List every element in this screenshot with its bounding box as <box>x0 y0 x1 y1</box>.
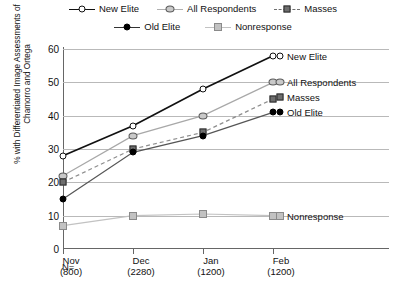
y-tick-label: 50 <box>48 77 59 88</box>
legend-key-old-elite-icon <box>114 21 140 33</box>
y-tick-label: 20 <box>48 177 59 188</box>
data-point-open-circle-icon <box>60 152 67 159</box>
legend-row-2: Old Elite Nonresponse <box>0 18 406 36</box>
series-line <box>63 82 273 175</box>
legend-label-old-elite: Old Elite <box>144 21 180 33</box>
legend-item-all-respondents: All Respondents <box>157 3 256 15</box>
data-point-filled-circle-icon <box>200 132 207 139</box>
series-end-marker-icon <box>277 52 284 59</box>
series-end-label-all-respondents: All Respondents <box>287 77 356 88</box>
data-point-dark-square-icon <box>60 179 67 186</box>
x-tick-label: Feb(1200) <box>267 255 294 277</box>
series-end-marker-icon <box>277 94 284 101</box>
legend-key-new-elite-icon <box>69 3 95 15</box>
y-axis-title: % with Differentiated Image Assessments … <box>13 0 33 179</box>
data-point-filled-circle-icon <box>60 196 67 203</box>
data-point-open-circle-icon <box>200 86 207 93</box>
legend-label-new-elite: New Elite <box>99 3 139 15</box>
data-point-filled-circle-icon <box>270 109 277 116</box>
series-line <box>63 97 273 182</box>
plot-area: 0102030405060 Nov(800)Dec(2280)Jan(1200)… <box>63 49 290 249</box>
legend-row-1: New Elite All Respondents Masses <box>0 0 406 18</box>
data-point-light-square-icon <box>199 210 207 218</box>
data-point-open-circle-icon <box>270 52 277 59</box>
legend-item-nonresponse: Nonresponse <box>205 21 292 33</box>
legend-item-old-elite: Old Elite <box>114 21 180 33</box>
data-point-light-square-icon <box>59 222 67 230</box>
x-tick-label: Jan(1200) <box>197 255 224 277</box>
legend-key-masses-icon <box>274 3 300 15</box>
series-end-marker-icon <box>277 109 284 116</box>
x-tick-n: (1200) <box>267 266 294 277</box>
legend-label-all-respondents: All Respondents <box>187 3 256 15</box>
series-end-label-masses: Masses <box>287 92 320 103</box>
data-point-grey-circle-icon <box>199 112 208 119</box>
series-end-label-new-elite: New Elite <box>287 50 327 61</box>
chart-figure: New Elite All Respondents Masses <box>0 0 406 295</box>
series-end-label-old-elite: Old Elite <box>287 107 323 118</box>
legend-label-masses: Masses <box>304 3 337 15</box>
legend-key-all-respondents-icon <box>157 3 183 15</box>
y-tick-label: 10 <box>48 210 59 221</box>
series-end-label-nonresponse: Nonresponse <box>287 210 344 221</box>
y-tick-label: 40 <box>48 110 59 121</box>
series-line <box>63 214 273 226</box>
legend-item-masses: Masses <box>274 3 337 15</box>
legend-item-new-elite: New Elite <box>69 3 139 15</box>
x-tick-month: Feb <box>267 255 294 266</box>
data-point-light-square-icon <box>129 212 137 220</box>
x-tick-n: (2280) <box>127 266 154 277</box>
x-tick-n: (1200) <box>197 266 224 277</box>
n-equals-label: N= <box>62 261 74 272</box>
x-tick-label: Dec(2280) <box>127 255 154 277</box>
data-point-filled-circle-icon <box>130 149 137 156</box>
plot-frame: 0102030405060 Nov(800)Dec(2280)Jan(1200)… <box>63 49 290 249</box>
legend-key-nonresponse-icon <box>205 21 231 33</box>
y-tick-label: 60 <box>48 44 59 55</box>
chart-legend: New Elite All Respondents Masses <box>0 0 406 36</box>
x-tick-month: Jan <box>197 255 224 266</box>
legend-label-nonresponse: Nonresponse <box>235 21 292 33</box>
data-point-open-circle-icon <box>130 122 137 129</box>
x-tick-month: Dec <box>127 255 154 266</box>
series-end-marker-icon <box>276 79 285 86</box>
series-end-marker-icon <box>276 212 284 220</box>
y-tick-label: 0 <box>53 244 59 255</box>
data-point-dark-square-icon <box>270 96 277 103</box>
y-tick-label: 30 <box>48 144 59 155</box>
data-point-grey-circle-icon <box>129 132 138 139</box>
